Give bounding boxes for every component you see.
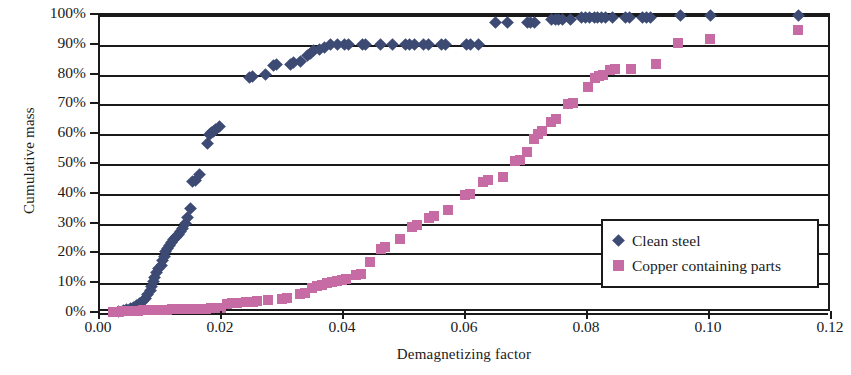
y-axis-tick-label: 70% <box>2 94 86 110</box>
data-point <box>498 172 508 182</box>
data-point <box>112 305 125 318</box>
data-point <box>295 289 305 299</box>
y-axis-tick <box>90 222 98 224</box>
data-point <box>395 234 405 244</box>
data-point <box>141 288 154 301</box>
y-axis-tick <box>90 132 98 134</box>
data-point <box>186 176 199 189</box>
data-point <box>160 246 173 259</box>
legend-label-clean-steel: Clean steel <box>632 233 700 249</box>
gridline <box>100 15 828 17</box>
data-point <box>139 292 152 305</box>
y-axis-tick-label: 30% <box>2 214 86 230</box>
data-point <box>167 234 180 247</box>
legend-item-clean-steel: Clean steel <box>603 228 817 253</box>
data-point <box>288 56 301 69</box>
y-axis-tick <box>90 251 98 253</box>
data-point <box>644 12 657 25</box>
data-point <box>501 16 514 29</box>
data-point <box>304 47 317 60</box>
data-point <box>429 211 439 221</box>
gridline <box>100 164 828 166</box>
data-point <box>626 64 636 74</box>
y-axis-tick-label: 100% <box>2 5 86 21</box>
data-point <box>267 59 280 72</box>
data-point <box>424 213 434 223</box>
data-point <box>522 147 532 157</box>
data-point <box>243 71 256 84</box>
data-point <box>206 303 216 313</box>
data-point <box>227 298 237 308</box>
x-axis-tick-label: 0.00 <box>63 319 133 335</box>
data-point <box>144 284 157 297</box>
data-point <box>277 294 287 304</box>
data-point <box>241 297 251 307</box>
data-point <box>380 242 390 252</box>
data-point <box>284 58 297 71</box>
gridline <box>100 45 828 47</box>
y-axis-tick <box>90 311 98 313</box>
data-point <box>579 12 592 25</box>
y-axis-tick-label: 20% <box>2 243 86 259</box>
y-axis-tick <box>90 192 98 194</box>
data-point <box>169 232 182 245</box>
y-axis-tick-label: 80% <box>2 65 86 81</box>
data-point <box>619 12 632 25</box>
data-point <box>108 307 118 317</box>
data-point <box>232 298 242 308</box>
y-axis-tick-label: 10% <box>2 273 86 289</box>
data-point <box>252 296 262 306</box>
y-axis-tick <box>90 162 98 164</box>
y-axis-tick <box>90 73 98 75</box>
data-point <box>576 12 589 25</box>
data-point <box>170 230 183 243</box>
x-axis-tick-label: 0.12 <box>795 319 851 335</box>
data-point <box>193 168 206 181</box>
x-axis-tick-label: 0.04 <box>307 319 377 335</box>
data-point <box>282 293 292 303</box>
data-point <box>248 297 258 307</box>
data-point <box>301 49 314 62</box>
data-point <box>113 307 123 317</box>
data-point <box>127 301 140 314</box>
data-point <box>637 12 650 25</box>
legend-swatch-diamond-icon <box>612 234 625 247</box>
data-point <box>546 117 556 127</box>
data-point <box>158 250 171 263</box>
data-point <box>294 55 307 68</box>
data-point <box>528 16 541 29</box>
data-point <box>568 98 578 108</box>
data-point <box>640 12 653 25</box>
data-point <box>318 41 331 54</box>
y-axis-tick <box>90 43 98 45</box>
data-point <box>327 277 337 287</box>
data-point <box>521 16 534 29</box>
data-point <box>165 237 178 250</box>
data-point <box>205 126 218 139</box>
data-point <box>145 280 158 293</box>
data-point <box>213 120 226 133</box>
y-axis-tick-label: 0% <box>2 303 86 319</box>
data-point <box>606 12 619 25</box>
y-axis-tick <box>90 102 98 104</box>
data-point <box>172 228 185 241</box>
data-point <box>271 58 284 71</box>
data-point <box>201 137 214 150</box>
data-point <box>184 202 197 215</box>
data-point <box>356 269 366 279</box>
gridline <box>100 104 828 106</box>
chart-legend: Clean steel Copper containing parts <box>601 219 819 288</box>
data-point <box>133 297 146 310</box>
chart-container: Cumulative mass 0%10%20%30%40%50%60%70%8… <box>0 0 851 375</box>
data-point <box>524 16 537 29</box>
data-point <box>705 34 715 44</box>
gridline <box>100 75 828 77</box>
data-point <box>222 299 232 309</box>
data-point <box>623 12 636 25</box>
gridline <box>100 194 828 196</box>
data-point <box>478 177 488 187</box>
data-point <box>181 211 194 224</box>
data-point <box>595 12 608 25</box>
data-point <box>351 270 361 280</box>
x-axis-tick-label: 0.08 <box>551 319 621 335</box>
